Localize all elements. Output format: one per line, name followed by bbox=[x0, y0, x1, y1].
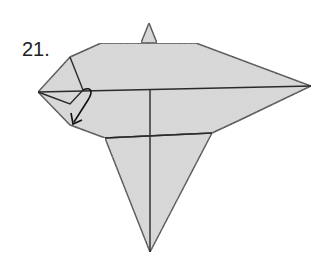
origami-fold-diagram bbox=[0, 0, 324, 267]
top-spike bbox=[141, 23, 157, 43]
bottom-point bbox=[105, 133, 212, 252]
